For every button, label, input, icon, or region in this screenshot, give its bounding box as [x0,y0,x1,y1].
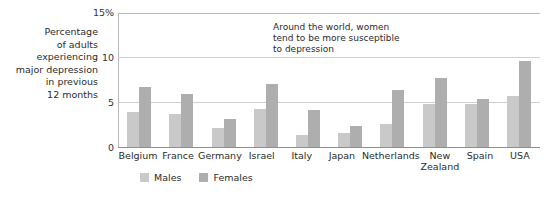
bar-female [308,110,320,148]
y-axis-tick-labels: 051015% [66,13,114,148]
y-tick-label: 15% [70,7,114,18]
bar-group [118,13,160,148]
y-tick-label: 10 [70,52,114,63]
x-tick-label: Spain [460,150,500,172]
y-tick-label: 5 [70,97,114,108]
bar-group [498,13,540,148]
bar-male [169,114,181,148]
bar-group [456,13,498,148]
x-tick-label: Italy [282,150,322,172]
bar-male [338,133,350,148]
chart-annotation: Around the world, women tend to be more … [273,22,400,56]
bar-female [392,90,404,148]
bar-male [507,96,519,148]
bar-female [139,87,151,148]
legend-swatch-males-icon [140,173,149,182]
x-tick-label: New Zealand [420,150,460,172]
x-tick-label: Israel [242,150,282,172]
legend-swatch-females-icon [199,173,208,182]
x-tick-label: USA [500,150,540,172]
bar-male [380,124,392,148]
bar-female [435,78,447,148]
bar-group [413,13,455,148]
x-axis-line [118,147,540,148]
chart-legend: Males Females [140,172,253,183]
legend-item-females: Females [199,172,252,183]
legend-label-males: Males [154,172,181,183]
legend-label-females: Females [213,172,252,183]
x-tick-label: Japan [322,150,362,172]
bar-male [465,104,477,148]
bar-male [296,135,308,149]
bar-male [127,112,139,148]
bar-female [266,84,278,148]
depression-bar-chart: Percentage of adults experiencing major … [0,0,560,197]
bar-male [254,109,266,148]
bar-female [224,119,236,148]
bar-group [202,13,244,148]
x-tick-label: Germany [198,150,242,172]
x-tick-label: Belgium [118,150,158,172]
bar-male [212,128,224,148]
bar-female [181,94,193,148]
bar-group [160,13,202,148]
x-tick-label: France [158,150,198,172]
bar-female [350,126,362,149]
x-axis-tick-labels: BelgiumFranceGermanyIsraelItalyJapanNeth… [118,150,540,172]
legend-item-males: Males [140,172,181,183]
bar-female [477,99,489,149]
bar-female [519,61,531,148]
x-tick-label: Netherlands [362,150,420,172]
y-tick-label: 0 [70,142,114,153]
bar-male [423,104,435,148]
